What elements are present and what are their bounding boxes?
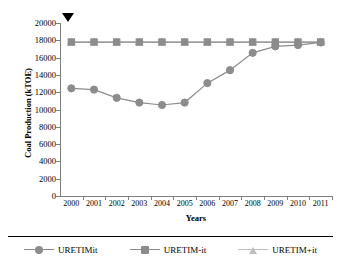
data-point-marker (226, 67, 233, 74)
x-tick-label: 2011 (306, 199, 336, 209)
y-tick-label: 20000 (14, 19, 56, 28)
y-tick-mark (56, 40, 60, 41)
data-point-marker (90, 86, 97, 93)
y-tick-label: 6000 (14, 140, 56, 149)
plot-area (60, 23, 332, 196)
data-point-marker (204, 80, 211, 87)
y-tick-mark (56, 161, 60, 162)
data-point-marker (113, 94, 120, 101)
x-axis-title: Years (60, 213, 332, 223)
y-tick-mark (56, 196, 60, 197)
data-point-marker (159, 39, 165, 45)
data-point-marker (68, 39, 74, 45)
y-tick-mark (56, 127, 60, 128)
data-point-marker (227, 39, 233, 45)
series-line (71, 42, 320, 105)
series-layer (60, 23, 332, 196)
legend-label: URETIM+it (272, 245, 317, 255)
data-point-marker (317, 39, 324, 46)
y-tick-mark (56, 92, 60, 93)
legend-swatch (238, 244, 268, 256)
data-point-marker (249, 39, 255, 45)
y-tick-label: 18000 (14, 36, 56, 45)
series-URETIMit (68, 39, 325, 109)
chart-legend: URETIMitURETIM-itURETIM+it (8, 236, 333, 260)
y-tick-mark (56, 23, 60, 24)
coal-production-line-chart: Coal Production (kTOE) 20000180001600014… (0, 0, 341, 265)
legend-item-uretim-it[interactable]: URETIM-it (130, 244, 207, 256)
y-tick-label: 8000 (14, 122, 56, 131)
y-tick-label: 14000 (14, 70, 56, 79)
x-axis-tick-labels: 2000200120022003200420052006200720082009… (60, 199, 332, 211)
y-tick-label: 0 (14, 192, 56, 201)
y-tick-mark (56, 75, 60, 76)
legend-swatch (24, 244, 54, 256)
data-point-marker (113, 39, 119, 45)
legend-label: URETIMit (58, 245, 98, 255)
y-tick-mark (56, 144, 60, 145)
triangle-marker-icon (249, 247, 257, 254)
y-tick-label: 10000 (14, 105, 56, 114)
legend-label: URETIM-it (164, 245, 207, 255)
data-point-marker (68, 85, 75, 92)
data-point-marker (158, 101, 165, 108)
data-point-marker (249, 49, 256, 56)
data-point-marker (272, 43, 279, 50)
data-point-marker (136, 39, 142, 45)
series-URETIM-it (68, 39, 324, 45)
data-point-marker (136, 99, 143, 106)
y-tick-label: 2000 (14, 174, 56, 183)
y-tick-mark (56, 110, 60, 111)
legend-item-uretim-it[interactable]: URETIM+it (238, 244, 317, 256)
y-axis-tick-labels: 2000018000160001400012000100008000600040… (14, 17, 56, 203)
y-tick-label: 4000 (14, 157, 56, 166)
y-tick-mark (56, 179, 60, 180)
y-tick-mark (56, 58, 60, 59)
legend-item-uretimit[interactable]: URETIMit (24, 244, 98, 256)
circle-marker-icon (35, 246, 43, 254)
data-point-marker (204, 39, 210, 45)
legend-swatch (130, 244, 160, 256)
data-point-marker (91, 39, 97, 45)
y-tick-label: 12000 (14, 88, 56, 97)
data-point-marker (181, 39, 187, 45)
y-tick-label: 16000 (14, 53, 56, 62)
square-marker-icon (141, 246, 149, 254)
data-point-marker (181, 99, 188, 106)
top-arrow-marker-icon (62, 13, 74, 22)
data-point-marker (294, 41, 301, 48)
